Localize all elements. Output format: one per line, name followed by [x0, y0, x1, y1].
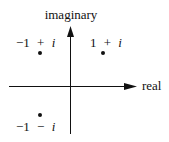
point-dot — [38, 113, 42, 117]
real-axis-arrowhead-icon — [124, 83, 137, 90]
point-label: −1 − i — [16, 119, 56, 134]
point-label-real: −1 — [16, 119, 30, 134]
point-label-real: 1 — [90, 35, 97, 50]
real-axis-label: real — [142, 78, 162, 93]
imaginary-axis-arrowhead-icon — [67, 26, 74, 37]
point-dot — [38, 51, 42, 55]
point-label-imag: i — [118, 35, 122, 50]
point-label-op: + — [37, 35, 44, 50]
point-neg1-plus-i: −1 + i — [16, 35, 56, 55]
imaginary-axis-label: imaginary — [45, 7, 98, 22]
point-label-op: + — [104, 35, 111, 50]
point-label-imag: i — [52, 35, 56, 50]
point-neg1-minus-i: −1 − i — [16, 113, 56, 134]
complex-plane-diagram: imaginary real −1 + i 1 + i −1 − i — [0, 0, 169, 142]
point-label-imag: i — [52, 119, 56, 134]
point-label-op: − — [37, 119, 44, 134]
point-label: 1 + i — [90, 35, 122, 50]
point-label-real: −1 — [16, 35, 30, 50]
point-1-plus-i: 1 + i — [90, 35, 122, 55]
point-label: −1 + i — [16, 35, 56, 50]
point-dot — [101, 51, 105, 55]
